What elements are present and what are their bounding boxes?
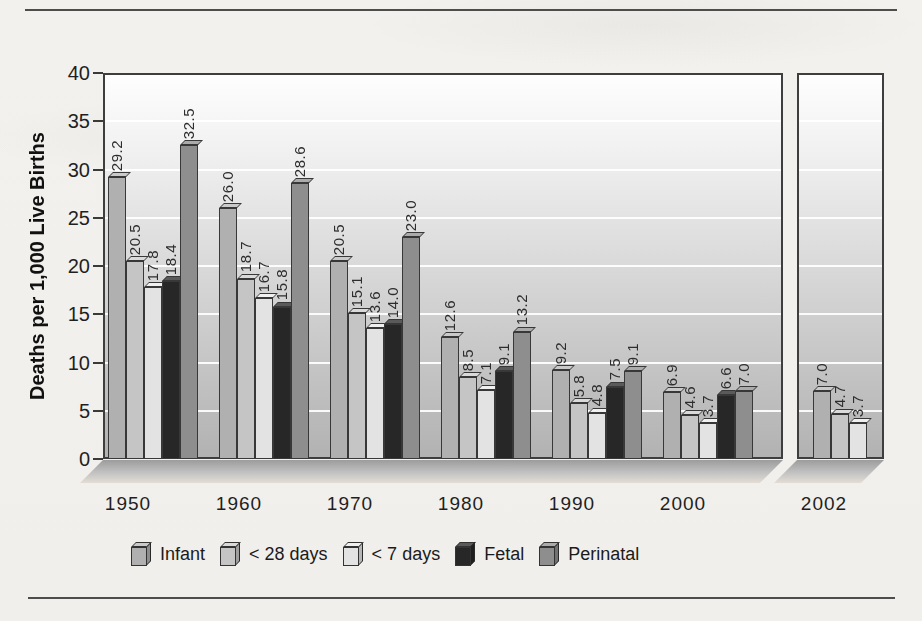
x-axis-label-2000: 2000 xyxy=(638,493,728,515)
bar-value-label: 26.0 xyxy=(220,171,235,202)
bar-2000-Infant xyxy=(663,392,681,459)
legend-label: Fetal xyxy=(484,544,524,565)
bar-value-label: 5.8 xyxy=(571,375,586,397)
legend-swatch-icon xyxy=(343,542,365,567)
y-tick-label-30: 30 xyxy=(48,159,90,182)
gridline-10 xyxy=(799,362,882,364)
bar-1960-Infant xyxy=(219,208,237,459)
bar-value-label: 15.8 xyxy=(274,269,289,300)
bar-1990-< 28 days xyxy=(570,403,588,459)
bar-value-label: 9.1 xyxy=(496,343,511,365)
bar-value-label: 32.5 xyxy=(181,108,196,139)
bar-1950-Perinatal xyxy=(180,145,198,459)
bar-1990-Infant xyxy=(552,370,570,459)
bar-value-label: 20.5 xyxy=(127,224,142,255)
y-tick-label-15: 15 xyxy=(48,303,90,326)
y-tick-label-35: 35 xyxy=(48,110,90,133)
x-axis-label-1980: 1980 xyxy=(416,493,506,515)
bar-1980-< 28 days xyxy=(459,377,477,459)
legend-item-Fetal: Fetal xyxy=(455,542,524,567)
gridline-15 xyxy=(799,313,882,315)
y-tick-20 xyxy=(93,265,103,267)
y-tick-0 xyxy=(93,458,103,460)
bar-1970-Fetal xyxy=(384,324,402,459)
bar-1990-Fetal xyxy=(606,387,624,459)
legend-item-< 7 days: < 7 days xyxy=(343,542,441,567)
bar-1980-Perinatal xyxy=(513,332,531,459)
y-tick-label-0: 0 xyxy=(48,448,90,471)
bar-1990-< 7 days xyxy=(588,413,606,459)
bar-2000-< 7 days xyxy=(699,423,717,459)
y-tick-label-5: 5 xyxy=(48,400,90,423)
gridline-20 xyxy=(105,265,781,267)
gridline-35 xyxy=(105,120,781,122)
gridline-20 xyxy=(799,265,882,267)
bar-value-label: 4.7 xyxy=(832,385,847,407)
bar-2000-Fetal xyxy=(717,395,735,459)
legend-swatch-icon xyxy=(539,542,561,567)
bar-value-label: 7.1 xyxy=(478,362,493,384)
gridline-30 xyxy=(105,169,781,171)
gridline-25 xyxy=(799,217,882,219)
bar-value-label: 7.0 xyxy=(736,363,751,385)
bar-value-label: 16.7 xyxy=(256,261,271,292)
bar-1990-Perinatal xyxy=(624,371,642,459)
bar-1980-Infant xyxy=(441,337,459,459)
bar-value-label: 23.0 xyxy=(403,200,418,231)
bar-1980-< 7 days xyxy=(477,390,495,459)
bar-value-label: 13.6 xyxy=(367,291,382,322)
x-axis-label-1950: 1950 xyxy=(83,493,173,515)
y-tick-30 xyxy=(93,169,103,171)
bar-value-label: 15.1 xyxy=(349,276,364,307)
cube-front-face xyxy=(131,547,147,566)
cube-front-face xyxy=(539,547,555,566)
x-axis-label-1970: 1970 xyxy=(305,493,395,515)
bar-2002-< 28 days xyxy=(831,414,849,459)
bar-1980-Fetal xyxy=(495,371,513,459)
gridline-35 xyxy=(799,120,882,122)
bar-value-label: 8.5 xyxy=(460,349,475,371)
bar-1960-< 7 days xyxy=(255,298,273,459)
y-tick-label-10: 10 xyxy=(48,352,90,375)
floor-shadow-2002 xyxy=(774,460,884,483)
y-tick-15 xyxy=(93,313,103,315)
bar-1970-Perinatal xyxy=(402,237,420,459)
bar-1950-Infant xyxy=(108,177,126,459)
bar-value-label: 3.7 xyxy=(700,395,715,417)
bar-1960-Perinatal xyxy=(291,183,309,459)
bar-value-label: 4.8 xyxy=(589,384,604,406)
y-tick-label-40: 40 xyxy=(48,62,90,85)
bar-value-label: 3.7 xyxy=(850,395,865,417)
legend-swatch-icon xyxy=(131,542,153,567)
y-tick-5 xyxy=(93,410,103,412)
legend-swatch-icon xyxy=(455,542,477,567)
bar-value-label: 17.8 xyxy=(145,250,160,281)
y-tick-10 xyxy=(93,362,103,364)
bar-1950-< 7 days xyxy=(144,287,162,459)
mortality-bar-chart: Deaths per 1,000 Live Births 05101520253… xyxy=(0,0,922,621)
cube-front-face xyxy=(343,547,359,566)
bar-value-label: 9.1 xyxy=(625,343,640,365)
y-tick-40 xyxy=(93,72,103,74)
gridline-30 xyxy=(799,169,882,171)
bar-value-label: 13.2 xyxy=(514,294,529,325)
y-tick-label-20: 20 xyxy=(48,255,90,278)
bar-1970-Infant xyxy=(330,261,348,459)
legend-label: Infant xyxy=(160,544,205,565)
bar-value-label: 9.2 xyxy=(553,342,568,364)
bar-value-label: 4.6 xyxy=(682,386,697,408)
bar-1960-Fetal xyxy=(273,307,291,459)
bar-value-label: 7.5 xyxy=(607,358,622,380)
bar-value-label: 6.6 xyxy=(718,367,733,389)
bar-value-label: 18.7 xyxy=(238,241,253,272)
bar-1970-< 7 days xyxy=(366,328,384,459)
bar-value-label: 7.0 xyxy=(814,363,829,385)
bar-value-label: 29.2 xyxy=(109,140,124,171)
x-axis-label-1960: 1960 xyxy=(194,493,284,515)
legend-item-< 28 days: < 28 days xyxy=(220,542,328,567)
bar-1950-< 28 days xyxy=(126,261,144,459)
bar-value-label: 6.9 xyxy=(664,364,679,386)
floor-shadow-main xyxy=(80,460,783,483)
legend-swatch-icon xyxy=(220,542,242,567)
bar-value-label: 18.4 xyxy=(163,244,178,275)
